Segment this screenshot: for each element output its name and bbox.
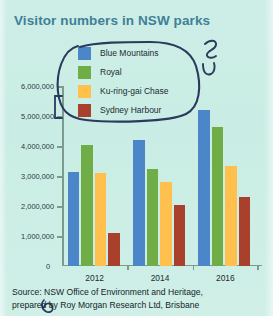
bar[interactable]	[133, 140, 145, 266]
x-tick-label: 2012	[68, 273, 122, 283]
chart-title: Visitor numbers in NSW parks	[14, 13, 210, 28]
bar[interactable]	[160, 182, 172, 266]
chart-page: Visitor numbers in NSW parks Blue Mounta…	[0, 0, 273, 316]
x-axis-tick	[127, 265, 129, 270]
source-line-1: Source: NSW Office of Environment and He…	[12, 286, 265, 299]
y-tick-label: 3,000,000	[21, 172, 54, 181]
bar[interactable]	[212, 127, 224, 267]
bar-group: 2016	[198, 86, 252, 266]
annotation-hook	[203, 63, 215, 75]
x-tick-label: 2014	[133, 273, 187, 283]
annotation-squiggle-top	[205, 41, 216, 58]
legend-swatch-icon	[78, 66, 91, 79]
bar-group: 2014	[133, 86, 187, 266]
bar[interactable]	[108, 233, 120, 266]
bar-group: 2012	[68, 86, 122, 266]
source-note: Source: NSW Office of Environment and He…	[12, 286, 265, 311]
bar[interactable]	[239, 197, 251, 266]
y-tick-label: 6,000,000	[21, 82, 54, 91]
y-axis-tick	[57, 146, 63, 148]
y-axis-tick	[57, 116, 63, 118]
legend-item[interactable]: Royal	[78, 63, 169, 81]
y-tick-label: 4,000,000	[21, 142, 54, 151]
source-line-2: prepared by Roy Morgan Research Ltd, Bri…	[12, 299, 265, 312]
bar[interactable]	[81, 145, 93, 267]
bar[interactable]	[174, 205, 186, 267]
y-tick-label-zero: 0	[46, 262, 50, 271]
x-axis-tick	[257, 265, 259, 270]
legend-item[interactable]: Blue Mountains	[78, 44, 169, 62]
bar[interactable]	[225, 166, 237, 267]
y-axis-tick	[57, 86, 63, 88]
legend-label: Blue Mountains	[100, 48, 159, 58]
annotation-bracket	[55, 96, 62, 118]
bar[interactable]	[68, 172, 80, 267]
bar[interactable]	[198, 110, 210, 266]
y-axis-tick	[57, 206, 63, 208]
bar[interactable]	[147, 169, 159, 267]
legend-swatch-icon	[78, 47, 91, 60]
legend-label: Royal	[100, 67, 122, 77]
plot-area: 0 1,000,0002,000,0003,000,0004,000,0005,…	[62, 86, 258, 266]
y-tick-label: 5,000,000	[21, 112, 54, 121]
x-tick-label: 2016	[198, 273, 252, 283]
y-axis-tick	[57, 236, 63, 238]
x-axis-tick	[193, 265, 195, 270]
y-tick-label: 2,000,000	[21, 202, 54, 211]
bar[interactable]	[95, 173, 107, 266]
y-tick-label: 1,000,000	[21, 232, 54, 241]
y-axis-tick	[57, 176, 63, 178]
